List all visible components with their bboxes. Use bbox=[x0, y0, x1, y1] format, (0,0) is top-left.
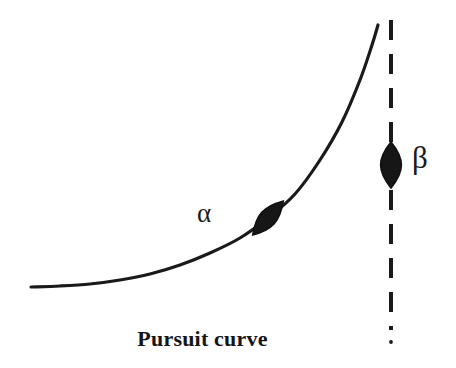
pursuit-curve-figure: α β Pursuit curve bbox=[0, 0, 456, 368]
figure-caption: Pursuit curve bbox=[0, 326, 405, 352]
beta-label: β bbox=[412, 142, 428, 173]
alpha-label: α bbox=[197, 200, 211, 227]
figure-canvas bbox=[0, 0, 456, 368]
